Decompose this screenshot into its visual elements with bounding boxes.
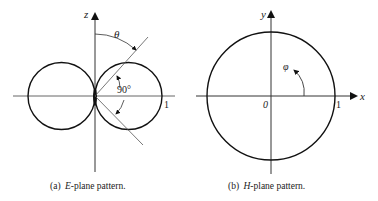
theta-label: θ: [114, 28, 120, 40]
caption-b: (b) H-plane pattern.: [228, 181, 305, 192]
caption-a: (a) E-plane pattern.: [50, 181, 126, 192]
beamwidth-arc-lower: [116, 100, 124, 114]
unit-mark: 1: [164, 99, 169, 110]
lower-half-power-line: [95, 96, 143, 145]
phi-label: φ: [283, 61, 289, 72]
radiation-pattern-figure: z θ 90° 1 (a) E-plane pattern. y x φ 0 1…: [0, 0, 378, 201]
e-plane-panel: z θ 90° 1 (a) E-plane pattern.: [13, 8, 175, 192]
beamwidth-label: 90°: [117, 84, 131, 95]
origin-label: 0: [263, 99, 268, 110]
phi-arc: [294, 70, 304, 96]
unit-mark: 1: [336, 99, 341, 110]
z-axis-label: z: [83, 8, 89, 20]
x-axis-label: x: [359, 90, 365, 102]
y-axis-label: y: [260, 8, 266, 20]
h-plane-panel: y x φ 0 1 (b) H-plane pattern.: [196, 8, 365, 192]
